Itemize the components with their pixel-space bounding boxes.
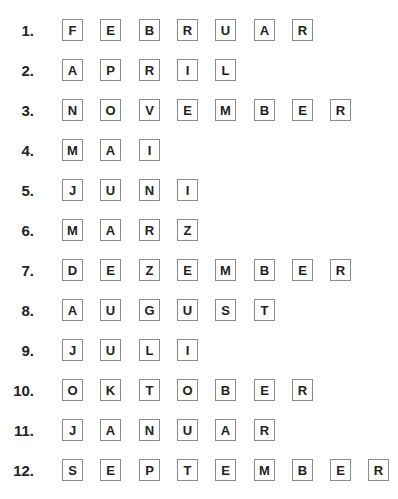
letter-box: E bbox=[215, 459, 236, 481]
letter-box: R bbox=[330, 259, 351, 281]
letter-box: K bbox=[100, 379, 121, 401]
word-row: 11.JANUAR bbox=[0, 419, 398, 443]
word-row: 3.NOVEMBER bbox=[0, 99, 398, 123]
row-number: 6. bbox=[0, 222, 34, 239]
letter-box: E bbox=[292, 99, 313, 121]
row-number: 5. bbox=[0, 182, 34, 199]
letter-box: R bbox=[330, 99, 351, 121]
letter-box: J bbox=[62, 179, 83, 201]
letter-box: S bbox=[62, 459, 83, 481]
letter-box: G bbox=[139, 299, 160, 321]
letter-box: N bbox=[139, 419, 160, 441]
letter-box: U bbox=[100, 299, 121, 321]
letter-box: N bbox=[62, 99, 83, 121]
letter-box: N bbox=[139, 179, 160, 201]
letter-box: L bbox=[215, 59, 236, 81]
letter-box: P bbox=[100, 59, 121, 81]
letter-box: A bbox=[100, 139, 121, 161]
letter-box: M bbox=[254, 459, 275, 481]
word-row: 5.JUNI bbox=[0, 179, 398, 203]
letter-box: M bbox=[215, 99, 236, 121]
row-number: 10. bbox=[0, 382, 34, 399]
letter-box: E bbox=[254, 379, 275, 401]
letter-box: P bbox=[139, 459, 160, 481]
letter-box: R bbox=[292, 379, 313, 401]
word-row: 10.OKTOBER bbox=[0, 379, 398, 403]
letter-box: Z bbox=[177, 219, 198, 241]
letter-box: E bbox=[100, 259, 121, 281]
letter-box: R bbox=[139, 219, 160, 241]
letter-box: J bbox=[62, 419, 83, 441]
row-number: 12. bbox=[0, 462, 34, 479]
letter-box: Z bbox=[139, 259, 160, 281]
letter-box: S bbox=[215, 299, 236, 321]
letter-box: M bbox=[215, 259, 236, 281]
letter-box: M bbox=[62, 219, 83, 241]
word-row: 2.APRIL bbox=[0, 59, 398, 83]
letter-box: E bbox=[330, 459, 351, 481]
letter-box: A bbox=[254, 19, 275, 41]
letter-box: E bbox=[177, 99, 198, 121]
letter-box: U bbox=[177, 299, 198, 321]
letter-box: A bbox=[215, 419, 236, 441]
letter-box: A bbox=[62, 299, 83, 321]
letter-box: U bbox=[100, 179, 121, 201]
letter-box: I bbox=[177, 59, 198, 81]
letter-box: O bbox=[100, 99, 121, 121]
letter-box: U bbox=[215, 19, 236, 41]
letter-box: A bbox=[100, 219, 121, 241]
letter-box: F bbox=[62, 19, 83, 41]
letter-box: U bbox=[100, 339, 121, 361]
letter-box: O bbox=[177, 379, 198, 401]
letter-box: R bbox=[292, 19, 313, 41]
letter-box: A bbox=[62, 59, 83, 81]
letter-box: B bbox=[254, 99, 275, 121]
word-row: 4.MAI bbox=[0, 139, 398, 163]
row-number: 4. bbox=[0, 142, 34, 159]
word-row: 7.DEZEMBER bbox=[0, 259, 398, 283]
letter-box: R bbox=[368, 459, 389, 481]
word-row: 8.AUGUST bbox=[0, 299, 398, 323]
letter-box: R bbox=[139, 59, 160, 81]
row-number: 9. bbox=[0, 342, 34, 359]
letter-box: U bbox=[177, 419, 198, 441]
word-row: 9.JULI bbox=[0, 339, 398, 363]
row-number: 11. bbox=[0, 422, 34, 439]
letter-box: T bbox=[177, 459, 198, 481]
letter-box: O bbox=[62, 379, 83, 401]
word-row: 6.MARZ bbox=[0, 219, 398, 243]
row-number: 2. bbox=[0, 62, 34, 79]
row-number: 8. bbox=[0, 302, 34, 319]
letter-box: V bbox=[139, 99, 160, 121]
letter-box: D bbox=[62, 259, 83, 281]
row-number: 1. bbox=[0, 22, 34, 39]
letter-box: R bbox=[254, 419, 275, 441]
letter-box: I bbox=[139, 139, 160, 161]
letter-box: B bbox=[254, 259, 275, 281]
letter-box: B bbox=[292, 459, 313, 481]
letter-box: E bbox=[177, 259, 198, 281]
word-row: 1.FEBRUAR bbox=[0, 19, 398, 43]
letter-box: M bbox=[62, 139, 83, 161]
letter-box: E bbox=[292, 259, 313, 281]
letter-box: E bbox=[100, 19, 121, 41]
letter-box: E bbox=[100, 459, 121, 481]
letter-box: B bbox=[139, 19, 160, 41]
letter-box: T bbox=[139, 379, 160, 401]
row-number: 3. bbox=[0, 102, 34, 119]
letter-box: L bbox=[139, 339, 160, 361]
letter-box: I bbox=[177, 339, 198, 361]
letter-box: A bbox=[100, 419, 121, 441]
letter-box: I bbox=[177, 179, 198, 201]
word-row: 12.SEPTEMBER bbox=[0, 459, 398, 483]
letter-box: R bbox=[177, 19, 198, 41]
letter-box: B bbox=[215, 379, 236, 401]
letter-box: J bbox=[62, 339, 83, 361]
letter-box: T bbox=[254, 299, 275, 321]
row-number: 7. bbox=[0, 262, 34, 279]
